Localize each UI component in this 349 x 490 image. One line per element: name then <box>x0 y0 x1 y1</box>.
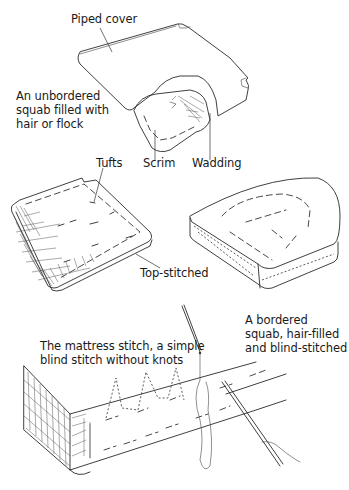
label-piped-cover: Piped cover <box>71 12 137 26</box>
label-unbordered-squab: An unbordered squab filled with hair or … <box>16 89 109 131</box>
label-wadding: Wadding <box>192 156 241 170</box>
leader-piped-cover <box>100 28 112 52</box>
tufted-squab-drawing <box>11 178 152 291</box>
label-scrim: Scrim <box>143 156 175 170</box>
label-top-stitched: Top-stitched <box>140 266 209 280</box>
line-art-illustration <box>0 0 349 490</box>
label-tufts: Tufts <box>96 156 122 170</box>
figure-canvas: Piped cover An unbordered squab filled w… <box>0 0 349 490</box>
label-bordered-squab: A bordered squab, hair-filled and blind-… <box>245 313 347 355</box>
bordered-squab-drawing <box>190 178 340 289</box>
label-mattress-stitch: The mattress stitch, a simple blind stit… <box>40 339 204 367</box>
piped-cover-drawing <box>78 24 249 152</box>
